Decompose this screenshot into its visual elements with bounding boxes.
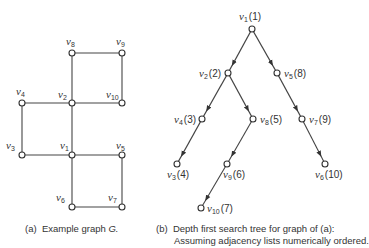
node-label: v5(8) xyxy=(284,67,306,80)
node-label: v4(3) xyxy=(174,113,196,126)
node-label: v10 xyxy=(106,88,119,101)
caption-a-tag: (a) xyxy=(25,223,37,234)
tree-edge xyxy=(229,122,252,162)
caption-a-text: Example graph xyxy=(42,223,106,234)
node-label: v7(9) xyxy=(309,113,331,126)
graph-node-v4 xyxy=(19,100,25,106)
caption-a-var: G. xyxy=(108,223,118,234)
arrow-icon xyxy=(271,62,272,64)
node-label: v10(7) xyxy=(207,202,233,215)
node-label: v6 xyxy=(56,191,65,204)
tree-edge xyxy=(303,122,323,162)
node-label: v2(2) xyxy=(199,67,221,80)
tree-node-v7 xyxy=(299,116,305,122)
arrow-icon xyxy=(183,152,184,154)
node-label: v8(5) xyxy=(260,113,282,126)
graph-node-v2 xyxy=(69,100,75,106)
graph-node-v6 xyxy=(69,204,75,210)
caption-b-tag: (b) xyxy=(156,223,168,234)
tree-edge xyxy=(278,76,300,117)
node-label: v5 xyxy=(116,139,125,152)
tree-edge xyxy=(229,76,251,117)
arrow-icon xyxy=(319,152,320,154)
arrow-icon xyxy=(296,107,297,109)
caption-b-line2: Assuming adjacency lists numerically ord… xyxy=(156,235,369,247)
node-label: v2 xyxy=(58,88,67,101)
tree-edge xyxy=(178,122,200,162)
graph-node-v5 xyxy=(119,152,125,158)
node-label: v1 xyxy=(60,139,69,152)
tree-node-v5 xyxy=(274,70,280,76)
node-label: v3 xyxy=(6,139,15,152)
node-label: v4 xyxy=(16,85,25,98)
tree-node-v4 xyxy=(199,116,205,122)
graph-node-v10 xyxy=(119,100,125,106)
tree-edge xyxy=(229,32,250,71)
node-label: v9(6) xyxy=(223,168,245,181)
tree-node-v6 xyxy=(322,161,328,167)
tree-node-v10 xyxy=(198,205,204,211)
caption-b: (b) Depth first search tree for graph of… xyxy=(156,223,369,247)
node-label: v3(4) xyxy=(167,168,189,181)
arrow-icon xyxy=(233,152,234,154)
tree-edge xyxy=(203,76,226,117)
node-label: v8 xyxy=(66,35,75,48)
arrow-icon xyxy=(233,62,234,64)
tree-node-v1 xyxy=(249,26,255,32)
node-label: v7 xyxy=(108,191,117,204)
graph-node-v1 xyxy=(69,152,75,158)
tree-node-v2 xyxy=(225,70,231,76)
caption-a: (a) Example graph G. xyxy=(25,223,118,235)
graph-node-v9 xyxy=(119,50,125,56)
tree-node-v3 xyxy=(174,161,180,167)
graph-node-v8 xyxy=(69,50,75,56)
example-graph-g: v8v9v4v2v10v3v1v5v6v7 xyxy=(6,35,125,210)
graph-node-v3 xyxy=(19,152,25,158)
arrow-icon xyxy=(247,107,248,109)
node-label: v9 xyxy=(116,35,125,48)
caption-b-line1: Depth first search tree for graph of (a)… xyxy=(173,223,335,234)
tree-node-v8 xyxy=(250,116,256,122)
node-label: v6(10) xyxy=(315,168,343,181)
node-label: v1(1) xyxy=(239,10,261,23)
graph-node-v7 xyxy=(119,204,125,210)
tree-edge xyxy=(253,32,275,71)
arrow-icon xyxy=(207,197,208,199)
arrow-icon xyxy=(208,107,209,109)
tree-node-v9 xyxy=(224,161,230,167)
dfs-tree: v1(1)v2(2)v5(8)v4(3)v8(5)v7(9)v3(4)v9(6)… xyxy=(167,10,343,215)
